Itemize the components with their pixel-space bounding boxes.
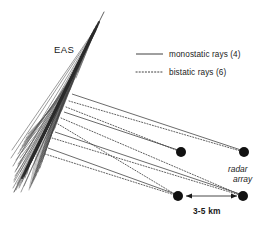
radar-node-lower-right[interactable] bbox=[238, 191, 248, 201]
eas-radar-diagram: monostatic rays (4) bistatic rays (6) EA… bbox=[0, 0, 274, 230]
eas-label: EAS bbox=[54, 44, 74, 55]
radar-array-label-line2: array bbox=[233, 174, 253, 184]
radar-node-upper-right[interactable] bbox=[239, 147, 249, 157]
figure-root: monostatic rays (4) bistatic rays (6) EA… bbox=[0, 0, 274, 230]
radar-array-label-line1: radar bbox=[228, 164, 249, 174]
legend-label-monostatic: monostatic rays (4) bbox=[169, 50, 241, 59]
radar-node-lower-left[interactable] bbox=[173, 191, 183, 201]
legend-label-bistatic: bistatic rays (6) bbox=[169, 68, 226, 77]
radar-node-upper-left[interactable] bbox=[176, 147, 186, 157]
distance-label: 3-5 km bbox=[193, 206, 221, 216]
